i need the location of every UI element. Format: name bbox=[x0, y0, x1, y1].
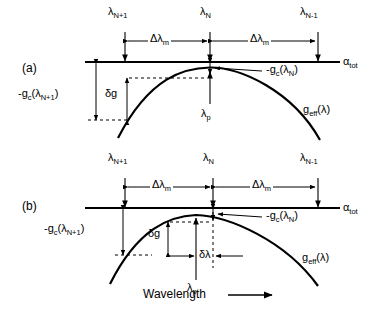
gain-margin-n-plus-1-label-a: -gc(λN+1) bbox=[18, 88, 58, 102]
delta-g-label-a: δg bbox=[105, 88, 117, 99]
gain-curve-label-b: geff(λ) bbox=[302, 252, 329, 266]
figure-canvas: (a) λN+1 λN λN-1 Δλm Δλm αtot -gc(λN) -g… bbox=[0, 0, 365, 316]
spacing-sub: m bbox=[263, 38, 269, 47]
spacing-sub: m bbox=[165, 184, 171, 193]
spacing-label-right-b: Δλm bbox=[250, 179, 273, 193]
panel-b-graphics bbox=[85, 178, 340, 295]
spacing-label-left-a: Δλm bbox=[148, 33, 171, 47]
gm-arg: (λ bbox=[280, 209, 289, 221]
gm-arg: (λ bbox=[58, 222, 67, 234]
curve-arg: (λ) bbox=[317, 103, 330, 115]
gm-tail: ) bbox=[81, 222, 85, 234]
spacing-sub: m bbox=[163, 38, 169, 47]
gm-sub2: N+1 bbox=[41, 93, 55, 102]
wavelength-axis-label: Wavelength bbox=[143, 288, 206, 300]
gm-text: -g bbox=[18, 87, 28, 99]
gain-curve-label-a: geff(λ) bbox=[303, 104, 330, 118]
gm-tail: ) bbox=[55, 87, 59, 99]
panel-a-graphics bbox=[85, 32, 340, 140]
mode-sub: N-1 bbox=[306, 11, 318, 20]
mode-label-n-a: λN bbox=[200, 6, 211, 20]
spacing-label-right-a: Δλm bbox=[248, 33, 271, 47]
mode-label-n-minus-1-a: λN-1 bbox=[300, 6, 318, 20]
gain-margin-n-plus-1-label-b: -gc(λN+1) bbox=[44, 223, 84, 237]
gm-text: -g bbox=[44, 222, 54, 234]
panel-label-b: (b) bbox=[22, 200, 37, 212]
mode-label-n-plus-1-b: λN+1 bbox=[108, 152, 127, 166]
mode-label-n-b: λN bbox=[203, 152, 214, 166]
mode-sub: N-1 bbox=[306, 157, 318, 166]
spacing-sub: m bbox=[265, 184, 271, 193]
curve-arg: (λ) bbox=[316, 251, 329, 263]
loss-sub: tot bbox=[349, 207, 357, 216]
peak-sub: p bbox=[207, 113, 211, 122]
spacing-base: Δλ bbox=[250, 32, 263, 44]
gm-tail: ) bbox=[294, 63, 298, 75]
mode-sub: N bbox=[209, 157, 214, 166]
gm-arg: (λ bbox=[32, 87, 41, 99]
gm-tail: ) bbox=[294, 209, 298, 221]
spacing-label-left-b: Δλm bbox=[150, 179, 173, 193]
gain-margin-n-label-a: -gc(λN) bbox=[266, 64, 298, 78]
spacing-base: Δλ bbox=[252, 178, 265, 190]
gm-sub2: N+1 bbox=[67, 228, 81, 237]
gain-margin-n-label-b: -gc(λN) bbox=[266, 210, 298, 224]
loss-line-label-a: αtot bbox=[343, 56, 358, 70]
mode-sub: N+1 bbox=[114, 11, 128, 20]
loss-line-label-b: αtot bbox=[343, 202, 358, 216]
mode-label-n-minus-1-b: λN-1 bbox=[300, 152, 318, 166]
gain-curve-b bbox=[110, 215, 318, 286]
gm-text: -g bbox=[266, 209, 276, 221]
delta-g-label-b: δg bbox=[148, 228, 160, 239]
gain-margin-n-leader-b bbox=[218, 214, 262, 217]
gm-arg: (λ bbox=[280, 63, 289, 75]
loss-sub: tot bbox=[349, 61, 357, 70]
gm-text: -g bbox=[266, 63, 276, 75]
peak-wavelength-label-a: λp bbox=[201, 108, 211, 122]
mode-label-n-plus-1-a: λN+1 bbox=[108, 6, 127, 20]
mode-sub: N bbox=[206, 11, 211, 20]
spacing-base: Δλ bbox=[152, 178, 165, 190]
delta-lambda-label-b: δλ bbox=[198, 249, 211, 260]
spacing-base: Δλ bbox=[150, 32, 163, 44]
panel-label-a: (a) bbox=[22, 62, 37, 74]
mode-sub: N+1 bbox=[114, 157, 128, 166]
